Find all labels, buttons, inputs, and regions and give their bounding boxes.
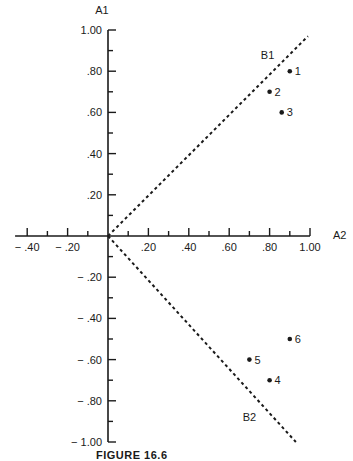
y-tick-label: − .80 bbox=[77, 395, 102, 407]
data-point-6 bbox=[288, 337, 293, 342]
point-label: 4 bbox=[275, 374, 281, 386]
data-point-5 bbox=[247, 357, 252, 362]
point-label: 2 bbox=[275, 86, 281, 98]
point-label: 3 bbox=[287, 106, 293, 118]
y-tick-label: − .20 bbox=[77, 271, 102, 283]
data-point-3 bbox=[279, 110, 284, 115]
x-axis-title: A2 bbox=[333, 229, 346, 241]
x-tick-label: .60 bbox=[222, 241, 237, 253]
point-label: 6 bbox=[295, 333, 301, 345]
x-tick-label: 1.00 bbox=[299, 241, 320, 253]
x-tick-label: − .40 bbox=[15, 241, 40, 253]
y-tick-label: − .60 bbox=[77, 354, 102, 366]
x-tick-label: .80 bbox=[262, 241, 277, 253]
y-tick-label: .60 bbox=[87, 106, 102, 118]
point-label: 1 bbox=[295, 65, 301, 77]
vector-label-b1: B1 bbox=[261, 49, 274, 61]
point-label: 5 bbox=[254, 354, 260, 366]
figure-caption: FIGURE 16.6 bbox=[96, 449, 168, 461]
vector-b2 bbox=[108, 236, 296, 442]
data-point-2 bbox=[267, 90, 272, 95]
y-tick-label: 1.00 bbox=[81, 24, 102, 36]
vector-label-b2: B2 bbox=[243, 411, 256, 423]
y-tick-label: − 1.00 bbox=[71, 436, 102, 448]
vector-b1 bbox=[108, 36, 308, 236]
y-axis-title: A1 bbox=[95, 4, 108, 16]
y-tick-label: − .40 bbox=[77, 312, 102, 324]
data-point-4 bbox=[267, 378, 272, 383]
data-points: 123456 bbox=[247, 65, 301, 386]
x-tick-label: − .20 bbox=[55, 241, 80, 253]
data-point-1 bbox=[288, 69, 293, 74]
y-tick-label: .40 bbox=[87, 148, 102, 160]
y-tick-label: .80 bbox=[87, 65, 102, 77]
x-tick-label: .20 bbox=[141, 241, 156, 253]
x-tick-label: .40 bbox=[181, 241, 196, 253]
y-tick-label: .20 bbox=[87, 189, 102, 201]
